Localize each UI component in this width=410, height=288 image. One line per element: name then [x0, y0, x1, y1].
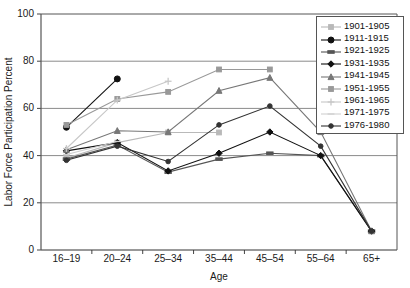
marker [115, 144, 120, 149]
legend-item[interactable]: 1911-1915 [317, 31, 403, 43]
marker [318, 152, 324, 158]
marker [329, 87, 334, 92]
legend-item[interactable]: 1941-1945 [317, 69, 403, 81]
data-point [267, 152, 273, 155]
marker [64, 158, 69, 163]
legend-item[interactable]: 1931-1935 [317, 56, 403, 68]
legend-item-label: 1901-1905 [342, 20, 389, 31]
marker [216, 158, 222, 161]
series-line [66, 81, 168, 148]
marker [328, 51, 334, 54]
legend-key-marker [329, 124, 334, 129]
legend-marker-icon [320, 94, 342, 106]
marker [114, 76, 120, 82]
legend-item-label: 1931-1935 [342, 57, 389, 68]
legend-item[interactable]: 1921-1925 [317, 44, 403, 56]
legend-item-label: 1951-1955 [342, 82, 389, 93]
marker [267, 152, 273, 155]
legend-key-marker [328, 98, 335, 105]
legend-marker-icon [320, 118, 342, 130]
legend-marker-icon [320, 69, 342, 81]
data-point [267, 129, 273, 135]
data-point [166, 159, 171, 164]
legend-key-marker [328, 61, 334, 67]
legend-item[interactable]: 1951-1955 [317, 81, 403, 93]
chart-container: Labor Force Participation Percent Age 02… [0, 0, 410, 288]
legend: 1901-19051911-19151921-19251931-19351941… [316, 16, 404, 134]
legend-key-marker [328, 51, 334, 54]
data-point [369, 229, 374, 234]
marker [329, 124, 334, 129]
marker [267, 67, 272, 72]
marker [369, 229, 374, 234]
data-point [267, 67, 272, 72]
legend-key-marker [328, 37, 334, 43]
legend-key-marker [329, 87, 334, 92]
data-point [217, 67, 222, 72]
data-point [268, 104, 273, 109]
legend-item-label: 1921-1925 [342, 44, 389, 55]
legend-item-label: 1941-1945 [342, 69, 389, 80]
legend-marker-icon [320, 106, 342, 118]
data-point [166, 89, 171, 94]
marker [328, 37, 334, 43]
data-point [267, 75, 273, 81]
marker [318, 144, 323, 149]
data-point [318, 144, 323, 149]
data-point [216, 158, 222, 161]
marker [64, 123, 69, 128]
series-1951-1955 [64, 67, 272, 127]
legend-item-label: 1911-1915 [342, 32, 389, 43]
data-point [64, 123, 69, 128]
marker [268, 104, 273, 109]
legend-marker-icon [320, 44, 342, 56]
marker [217, 67, 222, 72]
legend-key-marker [329, 25, 334, 30]
marker [328, 61, 334, 67]
marker [329, 25, 334, 30]
legend-item-label: 1976-1980 [342, 119, 389, 130]
data-point [115, 144, 120, 149]
legend-marker-icon [320, 32, 342, 44]
marker [267, 75, 273, 81]
marker [217, 123, 222, 128]
data-point [217, 130, 222, 135]
data-point [165, 78, 172, 85]
legend-item[interactable]: 1976-1980 [317, 118, 403, 130]
legend-marker-icon [320, 56, 342, 68]
marker [217, 130, 222, 135]
data-point [114, 76, 120, 82]
legend-item-label: 1971-1975 [342, 106, 389, 117]
legend-marker-icon [320, 81, 342, 93]
data-point [217, 123, 222, 128]
series-line [66, 69, 269, 124]
legend-item-label: 1961-1965 [342, 94, 389, 105]
legend-item[interactable]: 1901-1905 [317, 19, 403, 31]
marker [267, 129, 273, 135]
legend-item[interactable]: 1961-1965 [317, 93, 403, 105]
data-point [318, 152, 324, 158]
marker [166, 159, 171, 164]
legend-marker-icon [320, 19, 342, 31]
legend-item[interactable]: 1971-1975 [317, 106, 403, 118]
marker [166, 89, 171, 94]
data-point [64, 158, 69, 163]
